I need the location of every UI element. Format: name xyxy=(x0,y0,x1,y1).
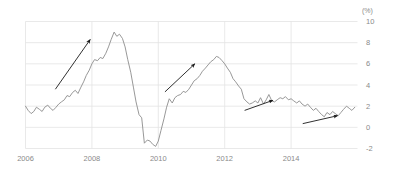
chart-background xyxy=(0,0,397,177)
y-tick-label: 10 xyxy=(366,17,374,26)
x-tick-label: 2014 xyxy=(283,154,300,163)
chart-container: -20246810 20062008201020122014 (%) xyxy=(0,0,397,177)
x-tick-label: 2010 xyxy=(150,154,167,163)
line-chart: -20246810 20062008201020122014 (%) xyxy=(0,0,397,177)
y-tick-label: 0 xyxy=(366,123,370,132)
y-tick-label: 8 xyxy=(366,38,370,47)
y-tick-label: 6 xyxy=(366,59,370,68)
x-tick-label: 2006 xyxy=(17,154,34,163)
y-tick-label: -2 xyxy=(366,144,373,153)
y-tick-label: 4 xyxy=(366,81,370,90)
x-tick-label: 2012 xyxy=(216,154,233,163)
x-tick-label: 2008 xyxy=(84,154,101,163)
y-tick-label: 2 xyxy=(366,102,370,111)
y-axis-unit-label: (%) xyxy=(362,7,373,15)
